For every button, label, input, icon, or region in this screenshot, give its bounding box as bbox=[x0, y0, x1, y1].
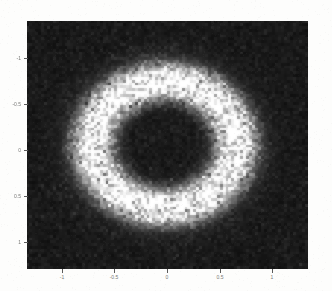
x-tick-label: -1 bbox=[60, 274, 64, 280]
plot-axes bbox=[27, 21, 308, 269]
y-tick-mark bbox=[24, 58, 28, 59]
y-tick-mark bbox=[24, 242, 28, 243]
y-tick-mark bbox=[24, 196, 28, 197]
y-tick-label: 0.5 bbox=[14, 193, 21, 199]
figure-canvas: -1 -0.5 0 0.5 1 -1 -0.5 0 0.5 1 bbox=[0, 0, 332, 291]
x-tick-label: 0 bbox=[166, 274, 169, 280]
x-tick-mark bbox=[114, 269, 115, 273]
x-tick-label: 0.5 bbox=[217, 274, 224, 280]
y-tick-mark bbox=[24, 150, 28, 151]
x-tick-mark bbox=[167, 269, 168, 273]
x-tick-mark bbox=[272, 269, 273, 273]
y-tick-label: -0.5 bbox=[12, 101, 21, 107]
y-tick-label: 1 bbox=[18, 239, 21, 245]
x-tick-mark bbox=[220, 269, 221, 273]
x-tick-label: -0.5 bbox=[110, 274, 119, 280]
y-tick-mark bbox=[24, 104, 28, 105]
y-tick-label: -1 bbox=[17, 55, 21, 61]
density-heatmap-image bbox=[27, 21, 308, 269]
x-tick-mark bbox=[62, 269, 63, 273]
x-tick-label: 1 bbox=[271, 274, 274, 280]
y-tick-label: 0 bbox=[18, 147, 21, 153]
